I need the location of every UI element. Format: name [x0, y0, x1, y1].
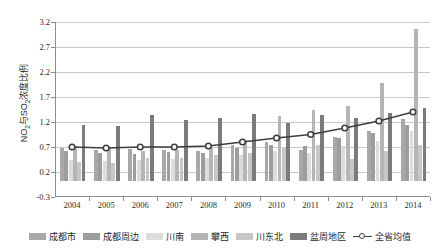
- average-line-marker: [376, 118, 382, 124]
- legend-item[interactable]: 川南: [146, 230, 184, 243]
- average-line-marker: [274, 135, 280, 141]
- legend-swatch: [290, 233, 307, 240]
- legend-item[interactable]: 成都市: [29, 230, 76, 243]
- legend-item[interactable]: 攀西: [191, 230, 229, 243]
- legend-label: 成都周边: [103, 230, 139, 243]
- average-line-marker: [69, 144, 75, 150]
- x-tick-label: 2014: [393, 200, 433, 210]
- legend-line-marker-icon: [353, 232, 372, 241]
- legend-item[interactable]: 川东北: [236, 230, 283, 243]
- legend-label: 全省均值: [375, 230, 411, 243]
- average-line-marker: [206, 143, 212, 149]
- average-line-marker: [308, 132, 314, 138]
- legend-swatch: [236, 233, 253, 240]
- y-tick-label: 2.2: [22, 68, 50, 77]
- y-tick-label: 0.7: [22, 143, 50, 152]
- legend-swatch: [83, 233, 100, 240]
- legend-item[interactable]: 成都周边: [83, 230, 139, 243]
- legend-swatch: [191, 233, 208, 240]
- legend-label: 川东北: [256, 230, 283, 243]
- chart-container: NO2与SO2浓度比例 3.22.72.21.71.20.70.2-0.3 20…: [0, 0, 440, 252]
- average-line-marker: [240, 139, 246, 145]
- legend-item[interactable]: 盆周地区: [290, 230, 346, 243]
- legend-label: 攀西: [211, 230, 229, 243]
- average-line-marker: [172, 144, 178, 150]
- average-line-marker: [137, 144, 143, 150]
- y-tick-label: 0.2: [22, 168, 50, 177]
- y-tick-label: 1.2: [22, 118, 50, 127]
- average-line-marker: [103, 145, 109, 151]
- y-tick-label: 3.2: [22, 18, 50, 27]
- y-tick-label: 1.7: [22, 93, 50, 102]
- legend-label: 盆周地区: [310, 230, 346, 243]
- y-tick-label: -0.3: [22, 193, 50, 202]
- average-line-marker: [410, 109, 416, 115]
- legend-label: 川南: [166, 230, 184, 243]
- chart-legend: 成都市成都周边川南攀西川东北盆周地区全省均值: [0, 228, 440, 244]
- y-tick-label: 2.7: [22, 43, 50, 52]
- legend-label: 成都市: [49, 230, 76, 243]
- average-line-series: [55, 22, 430, 197]
- y-tick-mark: [51, 197, 55, 198]
- average-line-marker: [342, 125, 348, 131]
- legend-item[interactable]: 全省均值: [353, 230, 411, 243]
- x-tick-mark: [430, 197, 431, 201]
- legend-swatch: [29, 233, 46, 240]
- legend-swatch: [146, 233, 163, 240]
